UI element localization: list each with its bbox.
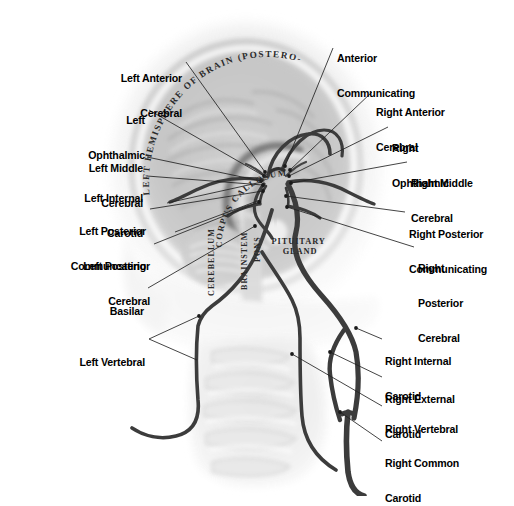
carotid-bifurcation — [342, 413, 354, 415]
label-line: Left Posterior — [16, 226, 146, 238]
label-basilar: Basilar — [54, 283, 144, 341]
label-line: Left Posterior — [30, 261, 150, 273]
label-line: Anterior — [337, 53, 415, 65]
label-line: Right — [418, 263, 463, 275]
label-line: Right Middle — [411, 178, 473, 190]
leader-right-internal-carotid — [356, 328, 382, 339]
brainstem-label: BRAINSTEM — [240, 232, 249, 290]
label-left-vertebral: Left Vertebral — [45, 334, 145, 392]
label-line: Right Anterior — [376, 107, 445, 119]
label-line: Left Vertebral — [45, 357, 145, 369]
label-line: Carotid — [385, 493, 459, 505]
label-line: Right Internal — [385, 356, 451, 368]
right-common-carotid-artery — [347, 412, 365, 496]
label-right-common-carotid: Right Common Carotid — [385, 435, 459, 506]
label-line: Basilar — [54, 306, 144, 318]
cervical-spine — [189, 336, 327, 487]
pons-label: PONS — [253, 236, 262, 262]
label-line: Posterior — [418, 298, 463, 310]
cerebellum-label: CEREBELLUM — [207, 228, 216, 296]
label-line: Left Anterior — [62, 73, 182, 85]
label-line: Right — [392, 143, 449, 155]
right-external-carotid-artery — [330, 330, 344, 420]
label-line: Right Common — [385, 458, 459, 470]
label-line: Left — [25, 115, 145, 127]
